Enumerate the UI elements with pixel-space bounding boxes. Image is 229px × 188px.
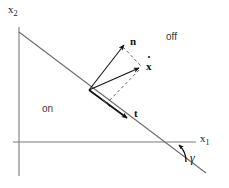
region-label-on: on	[42, 104, 53, 114]
state-velocity-vector-arrow	[89, 68, 139, 90]
figure-canvas: x2 x1 on off n x t γ	[0, 0, 229, 188]
region-label-off: off	[166, 32, 177, 42]
overdot-accent	[148, 56, 150, 58]
normal-vector-arrow	[89, 45, 124, 90]
y-axis-label: x2	[8, 4, 18, 18]
dashed-construction-n-to-xdot	[123, 47, 141, 66]
x-axis-label: x1	[200, 133, 210, 147]
gamma-angle-label: γ	[190, 152, 195, 164]
tangent-vector-label: t	[134, 108, 138, 119]
tangent-vector-arrow	[89, 90, 127, 118]
state-velocity-vector-label: x	[146, 61, 152, 72]
normal-vector-label: n	[130, 36, 136, 47]
